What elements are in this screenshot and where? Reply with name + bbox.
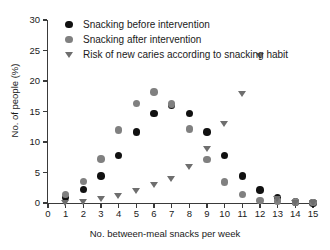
y-tick-label: 25 — [14, 46, 40, 56]
triangle-down-marker-icon — [62, 52, 76, 58]
data-point — [114, 193, 122, 199]
data-point — [256, 186, 264, 194]
y-tick — [43, 19, 47, 20]
data-point — [115, 126, 123, 134]
data-point — [256, 197, 264, 205]
y-tick — [43, 80, 47, 81]
data-point — [150, 88, 158, 96]
data-point — [203, 146, 211, 152]
chart-legend: Snacking before interventionSnacking aft… — [62, 17, 288, 62]
data-point — [239, 172, 247, 180]
data-point — [150, 182, 158, 188]
x-axis-title: No. between-meal snacks per week — [0, 228, 330, 239]
y-tick — [43, 111, 47, 112]
data-point — [221, 152, 229, 160]
data-point — [150, 110, 158, 118]
data-point — [97, 155, 105, 163]
data-point — [291, 200, 299, 206]
y-tick — [43, 172, 47, 173]
data-point — [186, 110, 194, 118]
data-point — [238, 91, 246, 97]
y-tick — [43, 141, 47, 142]
data-point — [185, 164, 193, 170]
data-point — [220, 121, 228, 127]
x-tick-label: 15 — [303, 209, 323, 219]
data-point — [239, 191, 247, 199]
y-tick-label: 10 — [14, 137, 40, 147]
circle-marker-icon — [62, 21, 76, 29]
y-tick-label: 20 — [14, 76, 40, 86]
data-point — [97, 172, 105, 180]
data-point — [115, 152, 123, 160]
circle-marker-icon — [62, 36, 76, 44]
legend-label: Snacking after intervention — [83, 32, 201, 47]
data-point — [203, 128, 211, 136]
data-point — [61, 200, 69, 206]
y-tick-label: 0 — [14, 198, 40, 208]
data-point — [80, 178, 88, 186]
y-tick-label: 30 — [14, 15, 40, 25]
data-point — [221, 178, 229, 186]
legend-label: Risk of new caries according to snacking… — [83, 47, 288, 62]
y-tick-label: 15 — [14, 107, 40, 117]
data-point — [167, 176, 175, 182]
data-point — [97, 196, 105, 202]
legend-swatch-shape — [65, 36, 73, 44]
data-point — [79, 199, 87, 205]
legend-swatch-shape — [65, 52, 73, 58]
data-point — [133, 128, 141, 136]
legend-label: Snacking before intervention — [83, 17, 210, 32]
y-tick-label: 5 — [14, 168, 40, 178]
legend-swatch-shape — [65, 21, 73, 29]
legend-item[interactable]: Snacking after intervention — [62, 32, 288, 47]
data-point — [80, 186, 88, 194]
data-point — [203, 156, 211, 164]
data-point — [132, 188, 140, 194]
data-point — [133, 100, 141, 108]
legend-item[interactable]: Snacking before intervention — [62, 17, 288, 32]
data-point — [273, 196, 281, 202]
data-point — [186, 125, 194, 133]
legend-item[interactable]: Risk of new caries according to snacking… — [62, 47, 288, 62]
chart-figure: No. of people (%) No. between-meal snack… — [0, 0, 330, 250]
data-point — [309, 200, 317, 206]
y-tick — [43, 50, 47, 51]
